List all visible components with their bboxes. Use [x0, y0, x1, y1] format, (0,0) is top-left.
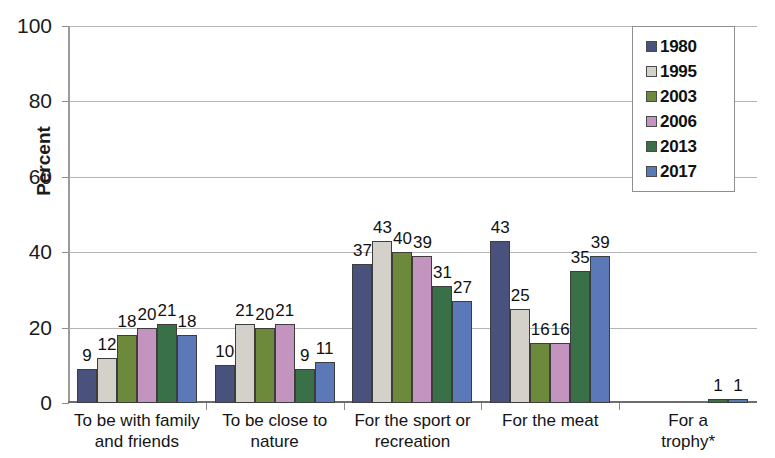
bar[interactable]	[215, 365, 235, 403]
bar-value-label: 39	[591, 233, 610, 253]
bar-value-label: 1	[733, 376, 742, 396]
y-axis-tick-label: 40	[6, 240, 52, 264]
bar[interactable]	[97, 358, 117, 403]
legend-item-label: 1980	[660, 37, 697, 57]
bar-value-label: 37	[353, 241, 372, 261]
x-axis-tickmark	[344, 403, 345, 410]
bar[interactable]	[372, 241, 392, 403]
legend-item-1980[interactable]: 1980	[633, 34, 734, 59]
bar[interactable]	[708, 399, 728, 403]
bar-value-label: 40	[393, 229, 412, 249]
bar[interactable]	[452, 301, 472, 403]
bar[interactable]	[117, 335, 137, 403]
x-axis-category-label-line: To be with family	[74, 410, 200, 431]
bar-value-label: 1	[713, 376, 722, 396]
x-axis-category-label: To be with familyand friends	[74, 410, 200, 452]
bar[interactable]	[275, 324, 295, 403]
x-axis-tickmark	[619, 403, 620, 410]
bar-value-label: 9	[300, 346, 309, 366]
x-axis-category-label-line: For the meat	[502, 410, 598, 431]
legend-item-2013[interactable]: 2013	[633, 134, 734, 159]
x-axis-category-label: To be close tonature	[222, 410, 327, 452]
bar-value-label: 43	[491, 218, 510, 238]
x-axis-category-label-line: For the sport or	[354, 410, 470, 431]
legend-item-2006[interactable]: 2006	[633, 109, 734, 134]
bar[interactable]	[392, 252, 412, 403]
legend-item-label: 2017	[660, 162, 697, 182]
bar-group: 91218202118	[68, 26, 206, 403]
bar[interactable]	[315, 362, 335, 403]
legend-swatch-icon	[646, 141, 657, 152]
bar-value-label: 18	[117, 312, 136, 332]
bar[interactable]	[728, 399, 748, 403]
bar[interactable]	[530, 343, 550, 403]
x-axis-category-labels: To be with familyand friendsTo be close …	[68, 410, 757, 458]
bar[interactable]	[137, 328, 157, 403]
bar[interactable]	[590, 256, 610, 403]
bar[interactable]	[157, 324, 177, 403]
legend-swatch-icon	[646, 116, 657, 127]
x-axis-category-label: For a trophy*	[654, 410, 723, 452]
x-axis-category-label-line: and friends	[74, 431, 200, 452]
bar[interactable]	[235, 324, 255, 403]
legend-item-1995[interactable]: 1995	[633, 59, 734, 84]
chart-legend: 198019952003200620132017	[632, 26, 735, 192]
bar[interactable]	[177, 335, 197, 403]
bar[interactable]	[510, 309, 530, 403]
y-axis-tickmark	[62, 403, 69, 404]
bar-value-label: 12	[97, 335, 116, 355]
y-axis-tick-label: 60	[6, 165, 52, 189]
bar-value-label: 43	[373, 218, 392, 238]
bar[interactable]	[570, 271, 590, 403]
x-axis-category-label-line: To be close to	[222, 410, 327, 431]
x-axis-tickmark	[481, 403, 482, 410]
bar[interactable]	[412, 256, 432, 403]
bar-chart: Percent 020406080100 9121820211810212021…	[0, 0, 775, 458]
bar[interactable]	[550, 343, 570, 403]
bar-value-label: 16	[531, 320, 550, 340]
legend-item-label: 2006	[660, 112, 697, 132]
x-axis-category-label-line: nature	[222, 431, 327, 452]
bar-value-label: 10	[215, 342, 234, 362]
y-axis-tick-label: 20	[6, 316, 52, 340]
y-axis-tick-labels: 020406080100	[0, 0, 52, 458]
bar[interactable]	[352, 264, 372, 403]
legend-item-label: 1995	[660, 62, 697, 82]
legend-item-2003[interactable]: 2003	[633, 84, 734, 109]
bar[interactable]	[295, 369, 315, 403]
x-axis-category-label: For the sport orrecreation	[354, 410, 470, 452]
bar-value-label: 25	[511, 286, 530, 306]
bar-value-label: 39	[413, 233, 432, 253]
legend-item-label: 2003	[660, 87, 697, 107]
bar-value-label: 11	[316, 339, 334, 359]
bar-value-label: 21	[235, 301, 254, 321]
x-axis-category-label: For the meat	[502, 410, 598, 431]
y-axis-tick-label: 80	[6, 89, 52, 113]
bar-group: 374340393127	[344, 26, 482, 403]
bar[interactable]	[77, 369, 97, 403]
x-axis-tickmark	[206, 403, 207, 410]
y-axis-tick-label: 100	[6, 14, 52, 38]
bar-group: 432516163539	[481, 26, 619, 403]
x-axis-category-label-line: recreation	[354, 431, 470, 452]
bar[interactable]	[490, 241, 510, 403]
bar-value-label: 9	[82, 346, 91, 366]
bar-group: 10212021911	[206, 26, 344, 403]
bar-value-label: 16	[551, 320, 570, 340]
y-axis-tick-label: 0	[6, 391, 52, 415]
bar-value-label: 31	[433, 263, 452, 283]
bar-value-label: 20	[137, 305, 156, 325]
bar[interactable]	[255, 328, 275, 403]
bar-value-label: 18	[177, 312, 196, 332]
legend-item-2017[interactable]: 2017	[633, 159, 734, 184]
legend-swatch-icon	[646, 41, 657, 52]
bar-value-label: 20	[255, 305, 274, 325]
x-axis-category-label-line: For a trophy*	[654, 410, 723, 452]
legend-swatch-icon	[646, 166, 657, 177]
legend-item-label: 2013	[660, 137, 697, 157]
legend-swatch-icon	[646, 66, 657, 77]
bar[interactable]	[432, 286, 452, 403]
bar-value-label: 21	[275, 301, 294, 321]
bar-value-label: 35	[571, 248, 590, 268]
legend-swatch-icon	[646, 91, 657, 102]
